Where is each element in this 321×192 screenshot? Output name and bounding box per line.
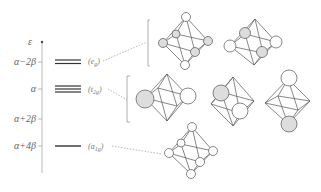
mo-energy-diagram: ε α−2β α α+2β α+4β (eg) (t2g) (a1g) xyxy=(0,0,321,192)
tick-label-alpha: α xyxy=(31,83,37,94)
orbital-t2g-1 xyxy=(136,74,196,121)
tick-label-alpha-plus-2beta: α+2β xyxy=(14,113,36,124)
label-t2g: (t2g) xyxy=(88,85,102,95)
label-eg: (eg) xyxy=(88,57,100,67)
orbital-t2g-2 xyxy=(211,77,254,126)
level-t2g xyxy=(55,86,81,92)
tick-label-alpha-minus-2beta: α−2β xyxy=(14,56,36,67)
label-a1g: (a1g) xyxy=(88,142,104,152)
energy-axis: ε α−2β α α+2β α+4β xyxy=(14,36,43,173)
orbital-t2g-3 xyxy=(265,70,310,132)
orbital-eg-1 xyxy=(159,13,213,70)
level-eg xyxy=(55,60,81,64)
orbital-a1g xyxy=(165,123,218,179)
tick-label-alpha-plus-4beta: α+4β xyxy=(14,140,36,151)
axis-symbol: ε xyxy=(28,36,32,47)
orbital-eg-2 xyxy=(224,19,282,65)
